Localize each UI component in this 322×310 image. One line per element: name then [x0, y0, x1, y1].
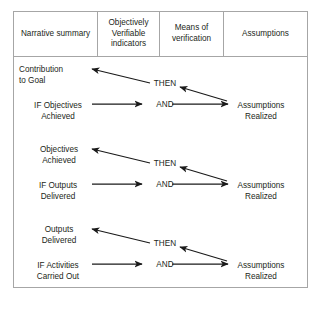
arrow-then-upper-objectives [92, 149, 150, 163]
logframe-table: Narrative summary Objectively Verifiable… [13, 11, 308, 288]
diagram-canvas: Narrative summary Objectively Verifiable… [0, 0, 322, 310]
arrow-then-upper-outputs [92, 229, 150, 243]
arrow-group-objectives [92, 149, 228, 184]
arrow-then-lower-goal [180, 87, 227, 101]
arrow-layer [14, 12, 309, 289]
arrow-then-upper-goal [92, 69, 150, 83]
arrow-then-lower-objectives [180, 167, 227, 181]
arrow-then-lower-outputs [180, 247, 227, 261]
arrow-group-outputs [92, 229, 228, 264]
arrow-group-goal [92, 69, 228, 104]
